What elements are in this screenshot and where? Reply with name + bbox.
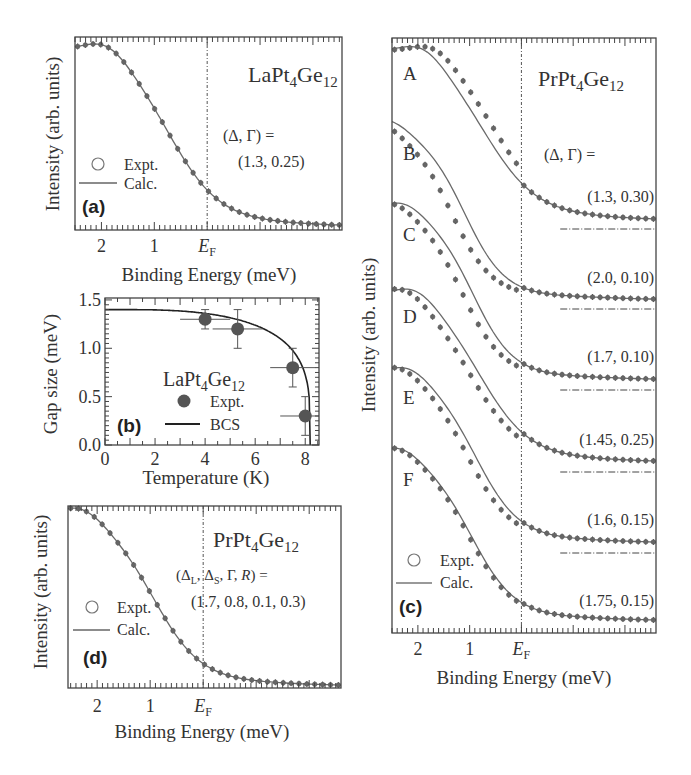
- panel-a-expt-point: [214, 196, 219, 201]
- curve-C-expt-point: [545, 370, 550, 375]
- panel-c-legend-expt-label: Expt.: [440, 552, 474, 570]
- curve-E-expt-point: [476, 474, 481, 479]
- x-tick-label: 2: [97, 236, 106, 256]
- panel-d-expt-point: [100, 522, 105, 527]
- x-tick-label: 1: [150, 236, 159, 256]
- panel-a-expt-point: [222, 202, 227, 207]
- curve-C-expt-point: [453, 277, 458, 282]
- curve-A-expt-point: [529, 190, 534, 195]
- curve-F-expt-point: [484, 564, 489, 569]
- curve-B-expt-point: [636, 296, 641, 301]
- curve-D-expt-point: [408, 291, 413, 296]
- curve-A-expt-point: [636, 216, 641, 221]
- curve-C-expt-point: [446, 263, 451, 268]
- panel-a-legend-expt-label: Expt.: [124, 156, 158, 174]
- panel-a-x-tick-labels: 21EF: [97, 236, 216, 259]
- expt-point: [231, 322, 244, 335]
- curve-F-expt-point: [461, 523, 466, 528]
- panel-a-expt-point: [199, 181, 204, 186]
- curve-F-expt-point: [552, 612, 557, 617]
- curve-B-expt-point: [598, 295, 603, 300]
- panel-d-x-axis-title: Binding Energy (meV): [115, 721, 290, 743]
- panel-c-x-axis-title: Binding Energy (meV): [437, 667, 612, 689]
- curve-params-E: (1.6, 0.15): [587, 511, 654, 529]
- curve-E-expt-point: [560, 534, 565, 539]
- curve-A-expt-point: [575, 210, 580, 215]
- curve-B-expt-point: [651, 297, 656, 302]
- curve-A-expt-point: [560, 206, 565, 211]
- curve-C-expt-point: [506, 359, 511, 364]
- x-tick-label: 8: [301, 449, 310, 469]
- curve-A-expt-point: [651, 217, 656, 222]
- figure: LaPt4Ge12 (Δ, Γ) = (1.3, 0.25) Expt. Cal…: [0, 0, 691, 775]
- curve-A-expt-point: [613, 215, 618, 220]
- curve-C-expt-point: [468, 308, 473, 313]
- curve-E-expt-point: [613, 538, 618, 543]
- curve-B-expt-point: [484, 268, 489, 273]
- curve-D-expt-point: [537, 442, 542, 447]
- curve-params-F: (1.75, 0.15): [579, 592, 654, 610]
- curve-E-expt-point: [529, 525, 534, 530]
- panel-a-expt-point: [245, 212, 250, 217]
- panel-c-params-label: (Δ, Γ) =: [544, 146, 595, 164]
- panel-c-x-tick-labels: 21EF: [413, 639, 530, 662]
- curve-A-expt-point: [621, 215, 626, 220]
- curve-E-expt-point: [438, 407, 443, 412]
- curve-A-expt-point: [628, 216, 633, 221]
- curve-A-expt-point: [514, 161, 519, 166]
- curve-A-expt-point: [453, 68, 458, 73]
- panel-a-expt-point: [152, 107, 157, 112]
- curve-F-expt-point: [575, 614, 580, 619]
- curve-C-expt-point: [430, 238, 435, 243]
- panel-c-label: (c): [399, 596, 422, 617]
- curve-C-expt-point: [484, 334, 489, 339]
- panel-a-label: (a): [82, 196, 105, 217]
- curve-C-expt-point: [476, 322, 481, 327]
- curve-E-expt-point: [628, 539, 633, 544]
- x-tick-label: 0: [101, 449, 110, 469]
- curve-B-expt-point: [529, 288, 534, 293]
- curve-E-expt-point: [468, 460, 473, 465]
- y-tick-label: 0.0: [79, 435, 102, 455]
- curve-F-expt-point: [400, 448, 405, 453]
- panel-a-expt-point: [168, 133, 173, 138]
- panel-d-expt-point: [218, 670, 223, 675]
- curve-F-expt-point: [491, 575, 496, 580]
- curve-A-expt-point: [598, 213, 603, 218]
- curve-F-expt-point: [583, 615, 588, 620]
- curve-D-expt-point: [392, 287, 397, 292]
- curve-C-expt-point: [415, 220, 420, 225]
- curve-C-expt-point: [651, 377, 656, 382]
- curve-B-expt-point: [461, 234, 466, 239]
- curve-B-expt-point: [643, 297, 648, 302]
- curve-C-expt-point: [392, 202, 397, 207]
- curve-E-expt-point: [590, 537, 595, 542]
- expt-point: [286, 361, 299, 374]
- curve-A-expt-point: [590, 212, 595, 217]
- curve-D-expt-point: [438, 325, 443, 330]
- panel-a-expt-point: [122, 60, 127, 65]
- curve-B-expt-point: [575, 294, 580, 299]
- curve-A-expt-point: [643, 216, 648, 221]
- expt-point: [199, 313, 212, 326]
- curve-A-expt-point: [605, 214, 610, 219]
- panel-b-y-tick-labels: 0.00.51.01.5: [79, 290, 102, 455]
- curve-B-expt-point: [400, 136, 405, 141]
- curve-F-expt-point: [567, 614, 572, 619]
- curve-D-expt-point: [567, 452, 572, 457]
- panel-a-expt-point: [275, 219, 280, 224]
- curve-E-expt-point: [408, 372, 413, 377]
- curve-E-expt-point: [499, 507, 504, 512]
- curve-D-expt-point: [446, 336, 451, 341]
- curve-C-expt-point: [636, 376, 641, 381]
- panel-a-expt-point: [283, 219, 288, 224]
- panel-d-params-label: (ΔL, ΔS, Γ, R) =: [176, 567, 268, 586]
- curve-params-C: (1.7, 0.10): [587, 348, 654, 366]
- curve-D-expt-point: [613, 457, 618, 462]
- curve-B-expt-point: [499, 281, 504, 286]
- panel-a-expt-point: [237, 210, 242, 215]
- curve-E-expt-point: [415, 378, 420, 383]
- panel-c: PrPt4Ge12 (Δ, Γ) = A(1.3, 0.30)B(2.0, 0.…: [358, 38, 656, 689]
- panel-d-expt-point: [226, 673, 231, 678]
- curve-E-expt-point: [545, 531, 550, 536]
